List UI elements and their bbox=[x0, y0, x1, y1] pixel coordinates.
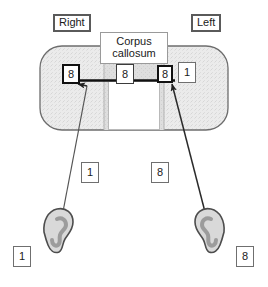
corpus-callosum-label-line1: Corpus bbox=[116, 35, 151, 47]
left-ear-icon bbox=[44, 209, 73, 253]
figure-canvas: Right Left Corpus callosum 8 8 8 1 1 8 1… bbox=[0, 0, 268, 287]
corpus-callosum-label: Corpus callosum bbox=[100, 32, 168, 64]
value-box-left-ear: 1 bbox=[13, 246, 31, 267]
value-box-right-ear: 8 bbox=[236, 246, 254, 267]
value-box-left-pathway: 1 bbox=[81, 162, 99, 183]
corpus-callosum-label-line2: callosum bbox=[112, 47, 155, 59]
value-box-left-hemisphere-b: 1 bbox=[178, 62, 196, 83]
value-box-corpus-callosum: 8 bbox=[116, 64, 134, 84]
value-box-right-pathway: 8 bbox=[151, 162, 169, 183]
value-box-right-hemisphere: 8 bbox=[62, 64, 80, 84]
hemisphere-label-right: Right bbox=[53, 14, 91, 32]
hemisphere-label-left: Left bbox=[191, 14, 221, 32]
corpus-callosum-inner-panel bbox=[108, 82, 160, 130]
value-box-left-hemisphere-a: 8 bbox=[157, 65, 173, 83]
right-ear-icon bbox=[195, 209, 224, 253]
